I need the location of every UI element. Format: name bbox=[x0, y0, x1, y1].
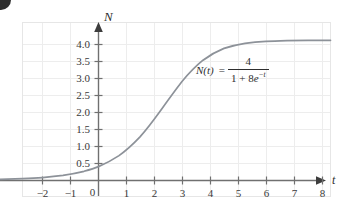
y-tick-label: 3.0 bbox=[62, 73, 90, 84]
y-tick-label: 1.0 bbox=[62, 141, 90, 152]
y-tick-label: 2.5 bbox=[62, 90, 90, 101]
x-tick-label: 8 bbox=[310, 188, 335, 199]
y-tick-label: 1.5 bbox=[62, 124, 90, 135]
y-tick-label: 4.0 bbox=[62, 39, 90, 50]
denominator-exponent: −t bbox=[259, 70, 266, 79]
figure-logistic-growth-plot: N t 4.0 3.5 3.0 2.5 2.0 1.5 1.0 0.5 −2 −… bbox=[0, 0, 347, 205]
x-tick-label: 1 bbox=[114, 188, 139, 199]
y-tick-label: 3.5 bbox=[62, 56, 90, 67]
x-tick-label: 2 bbox=[142, 188, 167, 199]
equation-lhs: N(t) bbox=[196, 64, 214, 76]
x-tick-label-zero: 0 bbox=[80, 187, 105, 198]
y-axis bbox=[94, 22, 103, 196]
x-tick-label: 5 bbox=[226, 188, 251, 199]
equation-annotation: N(t) = 4 1 + 8e−t bbox=[196, 56, 269, 84]
equation-denominator: 1 + 8e−t bbox=[228, 70, 269, 84]
x-tick-label: 7 bbox=[282, 188, 307, 199]
y-tick-label: 0.5 bbox=[62, 158, 90, 169]
x-tick-label: −2 bbox=[30, 188, 55, 199]
equation-fraction: 4 1 + 8e−t bbox=[228, 56, 269, 84]
y-axis-label: N bbox=[104, 10, 113, 23]
x-tick-label: 6 bbox=[254, 188, 279, 199]
x-axis-label: t bbox=[332, 174, 335, 186]
equation-equals-sign: = bbox=[219, 64, 225, 76]
x-tick-label: 4 bbox=[198, 188, 223, 199]
equation-numerator: 4 bbox=[241, 56, 257, 69]
plot-canvas bbox=[0, 0, 347, 205]
denominator-prefix: 1 + 8 bbox=[231, 71, 254, 83]
x-tick-label: 3 bbox=[170, 188, 195, 199]
y-tick-label: 2.0 bbox=[62, 107, 90, 118]
